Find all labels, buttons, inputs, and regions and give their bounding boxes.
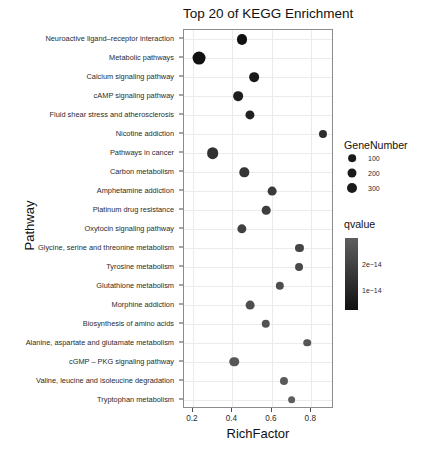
data-point [267, 187, 276, 196]
data-point [288, 396, 296, 404]
size-legend-key [347, 168, 356, 177]
y-axis-tick-label: Nicotine addiction [116, 129, 174, 138]
y-axis-tick [179, 284, 183, 285]
y-axis-tick [179, 114, 183, 115]
y-axis-tick-label: Tyrosine metabolism [106, 261, 174, 270]
gridline-horizontal [184, 58, 332, 59]
colorbar-tick-label: 2e−14 [362, 260, 382, 267]
y-axis-tick [179, 190, 183, 191]
y-axis-tick [179, 379, 183, 380]
x-axis-tick [271, 408, 272, 412]
y-axis-tick [179, 360, 183, 361]
x-axis-tick [310, 408, 311, 412]
data-point [296, 263, 304, 271]
y-axis-tick-label: Amphetamine addiction [97, 186, 174, 195]
colorbar-tick-label: 1e−14 [362, 286, 382, 293]
size-legend-title: GeneNumber [344, 139, 408, 151]
data-point [240, 167, 249, 176]
data-point [280, 377, 288, 385]
data-point [233, 91, 243, 101]
data-point [262, 319, 271, 328]
size-legend-label: 300 [368, 185, 380, 192]
data-point [246, 300, 255, 309]
y-axis-tick-label: Neuroactive ligand–receptor interaction [45, 34, 174, 43]
y-axis-tick [179, 152, 183, 153]
y-axis-tick-label: Tryptophan metabolism [97, 394, 174, 403]
y-axis-tick [179, 341, 183, 342]
gridline-horizontal [184, 305, 332, 306]
size-legend-key [347, 183, 357, 193]
data-point [230, 357, 240, 367]
y-axis-tick [179, 227, 183, 228]
y-axis-tick [179, 209, 183, 210]
y-axis-tick-label: Calcium signaling pathway [86, 72, 174, 81]
data-point [249, 73, 259, 83]
size-legend-label: 200 [368, 170, 380, 177]
gridline-horizontal [184, 229, 332, 230]
data-point [276, 282, 284, 290]
data-point [238, 224, 247, 233]
gridline-vertical [311, 30, 312, 407]
gridline-horizontal [184, 248, 332, 249]
gridline-horizontal [184, 362, 332, 363]
y-axis-tick [179, 95, 183, 96]
data-point [304, 339, 312, 347]
gridline-horizontal [184, 324, 332, 325]
y-axis-tick [179, 38, 183, 39]
y-axis-tick-label: Morphine addiction [112, 299, 174, 308]
y-axis-tick [179, 322, 183, 323]
y-axis-tick [179, 57, 183, 58]
y-axis-tick [179, 265, 183, 266]
y-axis-tick-label: Oxytocin signaling pathway [84, 223, 174, 232]
x-axis-tick-label: 0.8 [305, 414, 316, 423]
gridline-horizontal [184, 115, 332, 116]
y-axis-tick-label: Valine, leucine and isoleucine degradati… [36, 375, 174, 384]
y-axis-tick [179, 303, 183, 304]
gridline-vertical [272, 30, 273, 407]
x-axis-tick-label: 0.2 [186, 414, 197, 423]
size-legend-key [348, 154, 356, 162]
gridline-horizontal [184, 381, 332, 382]
qvalue-colorbar [345, 238, 358, 310]
plot-panel [183, 29, 333, 408]
y-axis-tick [179, 398, 183, 399]
y-axis-tick [179, 76, 183, 77]
y-axis-tick-label: Pathways in cancer [110, 148, 174, 157]
y-axis-tick [179, 246, 183, 247]
gridline-horizontal [184, 191, 332, 192]
y-axis-tick-label: Biosynthesis of amino acids [83, 318, 174, 327]
data-point [295, 244, 303, 252]
y-axis-tick-label: Fluid shear stress and atherosclerosis [50, 110, 174, 119]
y-axis-tick-label: Glycine, serine and threonine metabolism [38, 242, 174, 251]
y-axis-tick-label: cGMP – PKG signaling pathway [69, 356, 174, 365]
y-axis-tick-label: Platinum drug resistance [93, 205, 174, 214]
kegg-enrichment-bubble-chart: Top 20 of KEGG Enrichment Neuroactive li… [0, 0, 430, 451]
gridline-horizontal [184, 267, 332, 268]
y-axis-tick-label: Carbon metabolism [110, 167, 174, 176]
data-point [192, 52, 205, 65]
x-axis-tick-label: 0.4 [226, 414, 237, 423]
data-point [262, 206, 271, 215]
x-axis-tick [231, 408, 232, 412]
data-point [237, 34, 247, 44]
y-axis-tick-label: Alanine, aspartate and glutamate metabol… [26, 337, 174, 346]
y-axis-tick-label: Glutathione metabolism [96, 280, 174, 289]
gridline-horizontal [184, 286, 332, 287]
gridline-horizontal [184, 210, 332, 211]
gridline-vertical [232, 30, 233, 407]
chart-title: Top 20 of KEGG Enrichment [183, 6, 333, 21]
size-legend-label: 100 [368, 155, 380, 162]
y-axis-title: Pathway [22, 181, 37, 271]
gridline-horizontal [184, 96, 332, 97]
gridline-horizontal [184, 39, 332, 40]
x-axis-tick [192, 408, 193, 412]
gridline-horizontal [184, 172, 332, 173]
color-legend-title: qvalue [344, 218, 375, 230]
y-axis-tick [179, 133, 183, 134]
gridline-vertical [193, 30, 194, 407]
data-point [319, 130, 327, 138]
data-point [207, 147, 219, 159]
y-axis-tick [179, 171, 183, 172]
y-axis-tick-label: Metabolic pathways [109, 53, 174, 62]
data-point [246, 111, 255, 120]
